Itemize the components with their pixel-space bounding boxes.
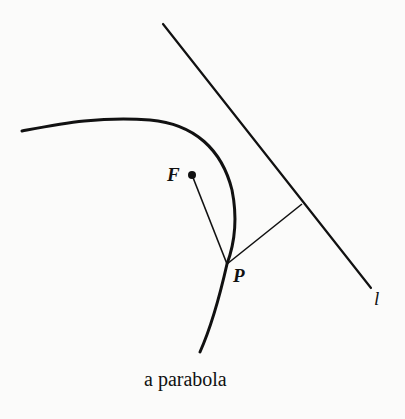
perpendicular-P-to-l	[227, 204, 302, 264]
caption: a parabola	[144, 368, 227, 391]
segment-FP	[192, 175, 227, 264]
parabola-curve	[22, 119, 235, 352]
directrix-label: l	[374, 288, 379, 309]
parabola-diagram: F P l a parabola	[0, 0, 405, 419]
point-label: P	[232, 265, 245, 286]
directrix-line	[163, 24, 371, 288]
focus-point	[188, 171, 196, 179]
focus-label: F	[166, 164, 180, 185]
